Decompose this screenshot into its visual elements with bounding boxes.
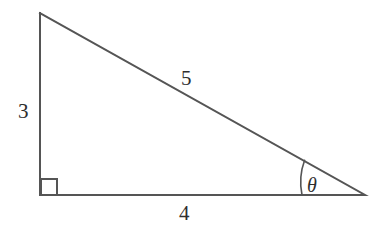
- right-triangle-figure: 3 5 4 θ: [0, 0, 382, 236]
- label-hypotenuse: 5: [181, 68, 192, 89]
- angle-arc-icon: [301, 160, 305, 195]
- right-angle-marker-icon: [41, 179, 57, 195]
- label-vertical-leg: 3: [18, 101, 29, 122]
- triangle-outline: [40, 13, 365, 195]
- label-angle-theta: θ: [307, 175, 317, 195]
- label-horizontal-leg: 4: [179, 203, 190, 224]
- triangle-drawing-canvas: [0, 0, 382, 236]
